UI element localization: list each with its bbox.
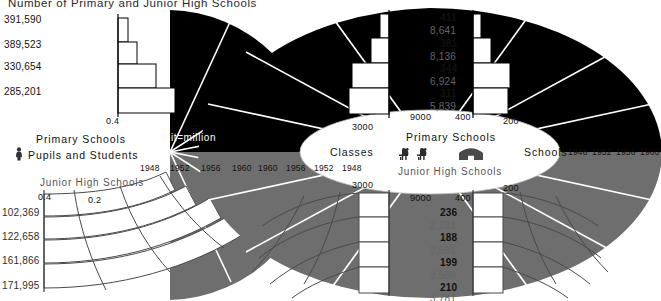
year-left-1956: 1956 [201,164,221,173]
year-right-1956: 1956 [616,148,636,157]
label-pupils-and-students: Pupils and Students [28,150,139,161]
value-pclasses-1948: 8,641 [430,26,456,36]
bar-schools-1960 [473,88,508,114]
chart-canvas: Number of Primary and Junior High School… [0,0,661,301]
label-primary-schools-center: Primary Schools [406,132,496,143]
tick-classes-3000-top: 3000 [352,123,373,132]
label-schools: Schools [524,147,568,158]
label-junior-high-schools-left: Junior High Schools [40,178,144,188]
value-pschools-1948: 411 [440,13,457,23]
value-pclasses-1956: 6,924 [430,77,456,87]
bar-classes-1960 [349,88,389,114]
value-junior-1956: 161,866 [2,256,40,266]
tick-classes-3000-bottom: 3000 [352,181,373,190]
tick-schools-200-bottom: 200 [503,184,519,193]
tick-classes-9000-top: 9000 [410,113,431,122]
year-left-1948: 1948 [140,164,160,173]
bar-jschools-1948 [473,193,503,217]
value-pclasses-1960: 5,839 [430,102,456,112]
bar-jclasses-1960 [359,267,389,293]
value-junior-1960: 171,995 [2,281,40,291]
tick-schools-400-top: 400 [455,113,471,122]
value-jschools-1956: 199 [440,258,457,268]
bar-schools-1956 [473,63,510,88]
year-mid-1952: 1952 [314,164,334,173]
year-left-1952: 1952 [170,164,190,173]
bar-jschools-1960 [473,267,503,293]
year-right-1952: 1952 [592,148,612,157]
value-primary-1956: 330,654 [4,62,42,72]
bar-classes-1956 [352,63,389,88]
right-bars-schools-junior [473,193,503,293]
bar-classes-1948 [380,14,389,38]
tick-pupils-0p4-bottom: 0.4 [38,193,51,202]
value-junior-1948: 102,369 [2,208,40,218]
bar-schools-1952 [473,38,491,63]
value-jschools-1960: 210 [440,283,457,293]
year-right-1948: 1948 [568,148,588,157]
tick-schools-400-bottom: 400 [455,194,471,203]
tick-pupils-0p2-bottom: 0.2 [88,196,101,205]
bar-primary-1960 [118,88,175,113]
desk-and-pupils-icon [398,146,438,162]
label-unit-million: Unit=million [157,133,216,143]
year-right-1960: 1960 [640,148,660,157]
bar-jclasses-1956 [359,242,389,267]
label-classes: Classes [330,147,374,158]
label-primary-schools-left: Primary Schools [36,134,126,145]
value-primary-1948: 391,590 [4,15,42,25]
tick-pupils-0p4-top: 0.4 [106,117,119,126]
value-pschools-1960: 311 [440,89,457,99]
value-jclasses-1956: 3,588 [430,271,456,281]
right-bars-classes-junior [359,193,389,293]
value-jschools-1948: 236 [440,208,457,218]
bar-jclasses-1948 [359,193,389,217]
year-mid-1956: 1956 [286,164,306,173]
value-jschools-1952: 188 [440,233,457,243]
left-bars-primary [118,18,175,113]
value-primary-1952: 389,523 [4,40,42,50]
bar-jschools-1952 [473,217,503,242]
year-left-1960: 1960 [232,164,252,173]
value-jclasses-1960: 3,781 [430,294,456,301]
bar-jschools-1956 [473,242,503,267]
value-junior-1952: 122,658 [2,232,40,242]
value-jclasses-1948: 2,231 [430,221,456,231]
bar-primary-1956 [118,64,156,88]
bar-classes-1952 [371,38,389,63]
value-jclasses-1952: 2,591 [430,246,456,256]
year-mid-1948: 1948 [342,164,362,173]
value-pschools-1952: 381 [440,39,457,49]
page-title: Number of Primary and Junior High School… [8,0,257,10]
label-junior-high-schools-center: Junior High Schools [398,167,502,177]
value-pclasses-1952: 8,136 [430,52,456,62]
pupil-figure-icon [14,147,24,161]
bar-primary-1948 [118,18,128,42]
value-primary-1960: 285,201 [4,87,42,97]
tick-classes-9000-bottom: 9000 [410,194,431,203]
value-pschools-1956: 344 [440,64,457,74]
bar-schools-1948 [473,14,481,38]
bar-jclasses-1952 [359,217,389,242]
tick-schools-200-top: 200 [503,117,519,126]
school-building-icon [458,147,484,161]
bar-primary-1952 [118,42,137,64]
year-mid-1960: 1960 [258,164,278,173]
